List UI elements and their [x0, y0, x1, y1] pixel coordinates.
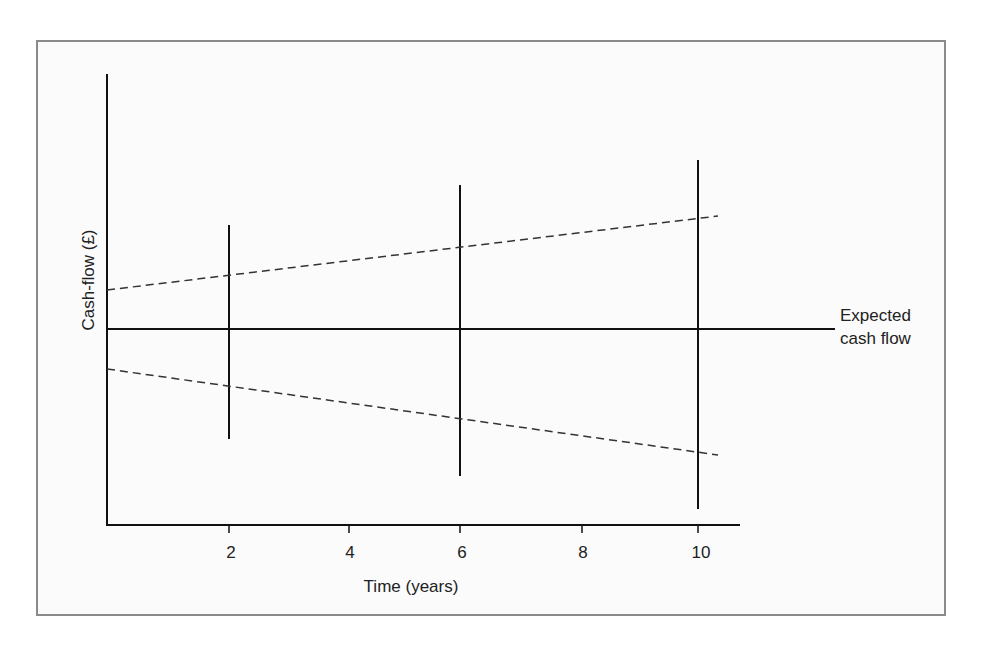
lower-bound-dashed-line: [107, 369, 718, 455]
x-tick-label: 6: [457, 543, 466, 563]
expected-cash-flow-label: Expected cash flow: [840, 304, 911, 350]
legend-line-2: cash flow: [840, 327, 911, 350]
upper-bound-dashed-line: [107, 216, 718, 290]
x-tick-label: 4: [345, 543, 354, 563]
x-tick-label: 2: [226, 543, 235, 563]
legend-line-1: Expected: [840, 304, 911, 327]
x-tick-label: 8: [578, 543, 587, 563]
y-axis-title: Cash-flow (£): [79, 229, 99, 330]
x-axis-title: Time (years): [364, 577, 459, 597]
x-tick-label: 10: [692, 543, 711, 563]
x-ticks: [229, 525, 698, 533]
